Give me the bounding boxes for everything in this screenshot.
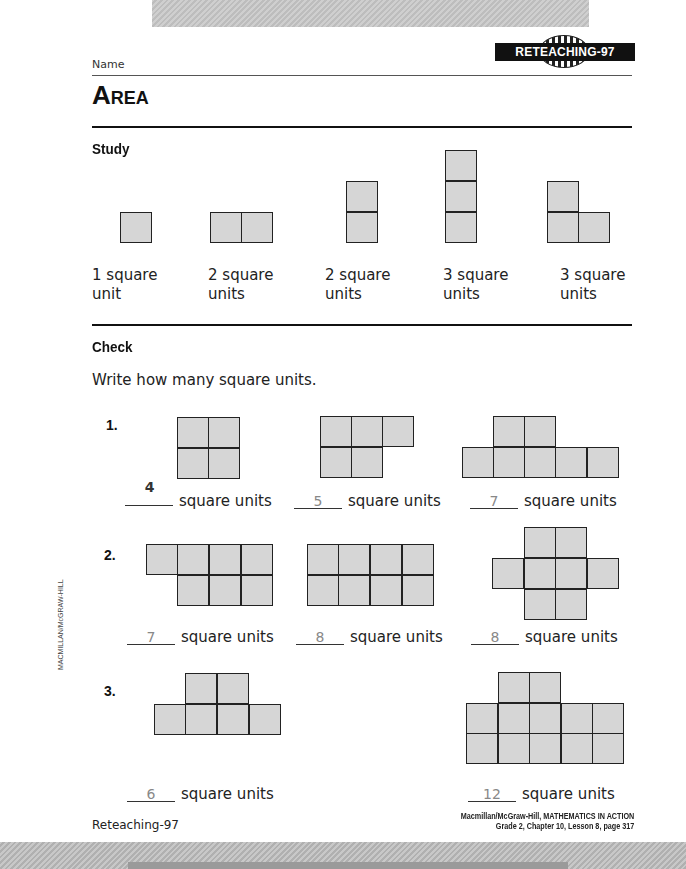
study-label-1: 1 square unit <box>92 266 182 304</box>
name-label: Name <box>92 58 124 71</box>
title-rest: REA <box>111 88 149 108</box>
answer-blank[interactable]: 8 <box>296 630 344 645</box>
title-initial: A <box>92 80 111 110</box>
scan-shadow-top <box>152 0 589 27</box>
study-label-3: 2 square units <box>325 266 415 304</box>
answer-3-1: 6square units <box>127 785 274 805</box>
footer-credit-line-2: Grade 2, Chapter 10, Lesson 8, page 317 <box>460 821 634 831</box>
check-heading: Check <box>92 338 133 355</box>
check-instruction: Write how many square units. <box>92 371 317 389</box>
reteaching-badge: RETEACHING-97 <box>495 35 635 68</box>
unit-text: square units <box>179 492 272 510</box>
answer-blank[interactable]: 5 <box>294 494 342 509</box>
answer-2-1: 7square units <box>127 628 274 648</box>
unit-text: square units <box>181 628 274 646</box>
answer-1-1-line: square units <box>125 492 272 512</box>
answer-blank[interactable]: 8 <box>471 630 519 645</box>
divider <box>92 126 632 128</box>
unit-text: square units <box>181 785 274 803</box>
answer-blank[interactable]: 6 <box>127 787 175 802</box>
unit-text: square units <box>525 628 618 646</box>
footer-credit: Macmillan/McGraw-Hill, MATHEMATICS IN AC… <box>460 811 634 831</box>
unit-text: square units <box>350 628 443 646</box>
footer-page-label: Reteaching-97 <box>92 818 179 832</box>
answer-blank[interactable]: 7 <box>127 630 175 645</box>
name-line[interactable] <box>92 75 632 76</box>
divider <box>92 324 632 326</box>
page-title: AREA <box>92 80 149 111</box>
study-label-5: 3 square units <box>560 266 650 304</box>
study-heading: Study <box>92 140 130 157</box>
study-label-2: 2 square units <box>208 266 298 304</box>
footer-credit-line-1: Macmillan/McGraw-Hill, MATHEMATICS IN AC… <box>460 811 634 821</box>
problem-number: 1. <box>106 417 118 433</box>
answer-2-3: 8square units <box>471 628 618 648</box>
problem-number: 3. <box>104 683 116 699</box>
unit-text: square units <box>522 785 615 803</box>
problem-number: 2. <box>104 547 116 563</box>
answer-3-2: 12square units <box>468 785 615 805</box>
answer-blank[interactable]: 12 <box>468 787 516 802</box>
answer-2-2: 8square units <box>296 628 443 648</box>
answer-blank[interactable]: 7 <box>470 494 518 509</box>
answer-blank[interactable] <box>125 505 173 506</box>
unit-text: square units <box>348 492 441 510</box>
answer-1-2: 5square units <box>294 492 441 512</box>
scan-shadow-bottom <box>0 842 686 869</box>
badge-label: RETEACHING-97 <box>495 43 635 61</box>
side-credit: MACMILLAN/McGRAW-HILL <box>57 579 64 670</box>
unit-text: square units <box>524 492 617 510</box>
answer-1-3: 7square units <box>470 492 617 512</box>
study-label-4: 3 square units <box>443 266 533 304</box>
